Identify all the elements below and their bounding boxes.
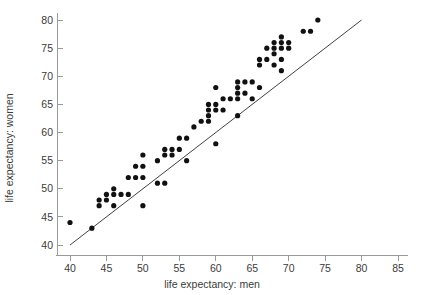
- data-point: [140, 175, 145, 180]
- data-point: [126, 192, 131, 197]
- data-point: [279, 68, 284, 73]
- data-point: [264, 46, 269, 51]
- data-point: [235, 79, 240, 84]
- data-point: [140, 203, 145, 208]
- x-tick-label: 40: [64, 262, 76, 274]
- data-point: [111, 192, 116, 197]
- data-point: [89, 226, 94, 231]
- y-tick-label: 50: [41, 182, 53, 194]
- data-point: [242, 79, 247, 84]
- data-point: [220, 96, 225, 101]
- x-tick-label: 55: [173, 262, 185, 274]
- data-point: [250, 96, 255, 101]
- y-tick-label: 45: [41, 211, 53, 223]
- x-tick-label: 50: [137, 262, 149, 274]
- data-point: [279, 34, 284, 39]
- data-point: [235, 91, 240, 96]
- x-axis-title: life expectancy: men: [164, 278, 260, 290]
- x-tick-label: 60: [210, 262, 222, 274]
- data-point: [206, 113, 211, 118]
- plot-area: 404550556065707580 40455055606570758085 …: [0, 0, 425, 295]
- y-tick-label: 65: [41, 98, 53, 110]
- x-tick-label: 80: [356, 262, 368, 274]
- data-point: [140, 152, 145, 157]
- data-point: [162, 181, 167, 186]
- data-point: [111, 186, 116, 191]
- data-point: [177, 136, 182, 141]
- data-point: [257, 85, 262, 90]
- x-tick-label: 45: [101, 262, 113, 274]
- data-point: [162, 147, 167, 152]
- data-point: [213, 141, 218, 146]
- data-point: [271, 62, 276, 67]
- data-point: [169, 152, 174, 157]
- scatter-chart: 404550556065707580 40455055606570758085 …: [0, 0, 425, 295]
- x-tick-label: 65: [246, 262, 258, 274]
- identity-reference-line: [70, 20, 362, 245]
- y-axis: 404550556065707580: [41, 13, 62, 255]
- data-point: [279, 40, 284, 45]
- data-point: [315, 17, 320, 22]
- data-point: [118, 192, 123, 197]
- data-point: [279, 46, 284, 51]
- data-point: [206, 119, 211, 124]
- data-point: [213, 85, 218, 90]
- data-point: [308, 29, 313, 34]
- data-point: [242, 91, 247, 96]
- data-point: [104, 197, 109, 202]
- data-point: [250, 79, 255, 84]
- data-point: [140, 164, 145, 169]
- y-axis-title: life expectancy: women: [3, 93, 15, 202]
- data-point: [111, 203, 116, 208]
- y-tick-label: 40: [41, 239, 53, 251]
- data-point: [133, 175, 138, 180]
- x-tick-label: 70: [283, 262, 295, 274]
- x-tick-label: 75: [319, 262, 331, 274]
- identity-reference-line: [70, 20, 362, 245]
- data-point: [177, 147, 182, 152]
- data-point: [213, 107, 218, 112]
- data-point: [286, 40, 291, 45]
- data-point: [133, 164, 138, 169]
- data-point: [67, 220, 72, 225]
- data-point: [220, 107, 225, 112]
- data-point: [155, 158, 160, 163]
- x-axis: 40455055606570758085: [56, 256, 408, 275]
- data-point: [271, 51, 276, 56]
- y-tick-label: 75: [41, 42, 53, 54]
- data-point: [286, 46, 291, 51]
- data-point: [184, 158, 189, 163]
- data-point: [104, 192, 109, 197]
- data-points: [67, 17, 320, 230]
- data-point: [301, 29, 306, 34]
- x-tick-label: 85: [392, 262, 404, 274]
- data-point: [126, 175, 131, 180]
- data-point: [97, 203, 102, 208]
- data-point: [155, 181, 160, 186]
- data-point: [235, 96, 240, 101]
- data-point: [271, 46, 276, 51]
- data-point: [206, 107, 211, 112]
- data-point: [206, 102, 211, 107]
- y-tick-label: 70: [41, 70, 53, 82]
- data-point: [199, 119, 204, 124]
- data-point: [191, 124, 196, 129]
- data-point: [213, 102, 218, 107]
- y-tick-label: 55: [41, 154, 53, 166]
- data-point: [235, 113, 240, 118]
- data-point: [257, 62, 262, 67]
- data-point: [279, 57, 284, 62]
- data-point: [235, 85, 240, 90]
- data-point: [169, 147, 174, 152]
- data-point: [184, 136, 189, 141]
- data-point: [264, 57, 269, 62]
- data-point: [257, 57, 262, 62]
- data-point: [228, 96, 233, 101]
- y-tick-label: 60: [41, 126, 53, 138]
- data-point: [97, 197, 102, 202]
- data-point: [162, 152, 167, 157]
- y-tick-label: 80: [41, 14, 53, 26]
- data-point: [271, 40, 276, 45]
